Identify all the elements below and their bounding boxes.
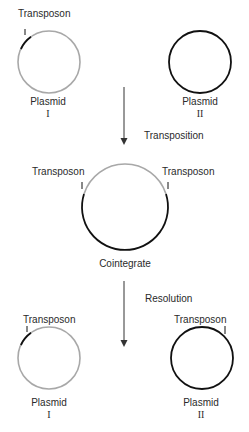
bottom-plasmid-ii-name: Plasmid <box>181 397 221 408</box>
bottom-plasmid-i-numeral: I <box>29 409 69 420</box>
plasmid-ii-derived-arc <box>82 194 168 250</box>
resolution-arrow <box>121 281 128 347</box>
top-plasmid-i-numeral: I <box>28 108 68 119</box>
transposon-segment <box>21 333 31 345</box>
diagram-canvas <box>0 0 249 432</box>
plasmid-i-derived-arc <box>84 164 166 194</box>
bottom-plasmid-ii-transposon-label: Transposon <box>174 314 226 325</box>
top-plasmid-i-transposon-label: Transposon <box>18 8 70 19</box>
transposon-segment <box>21 37 31 49</box>
top-plasmid-ii-numeral: II <box>180 108 220 119</box>
bottom-plasmid-i-transposon-label: Transposon <box>23 314 75 325</box>
top-plasmid-i <box>18 29 80 93</box>
transposition-label: Transposition <box>144 130 204 141</box>
cointegrate-circle <box>82 164 168 250</box>
top-plasmid-i-name: Plasmid <box>28 96 68 107</box>
bottom-plasmid-i-name: Plasmid <box>29 397 69 408</box>
cointegrate-right-transposon-label: Transposon <box>162 166 214 177</box>
top-plasmid-ii <box>169 31 231 93</box>
cointegrate-name: Cointegrate <box>95 258 155 269</box>
resolution-label: Resolution <box>145 293 192 304</box>
top-plasmid-ii-name: Plasmid <box>180 96 220 107</box>
bottom-plasmid-ii <box>171 326 233 389</box>
transposition-arrow <box>121 87 128 145</box>
bottom-plasmid-ii-numeral: II <box>181 409 221 420</box>
bottom-plasmid-i <box>18 326 80 389</box>
cointegrate-left-transposon-label: Transposon <box>32 166 84 177</box>
